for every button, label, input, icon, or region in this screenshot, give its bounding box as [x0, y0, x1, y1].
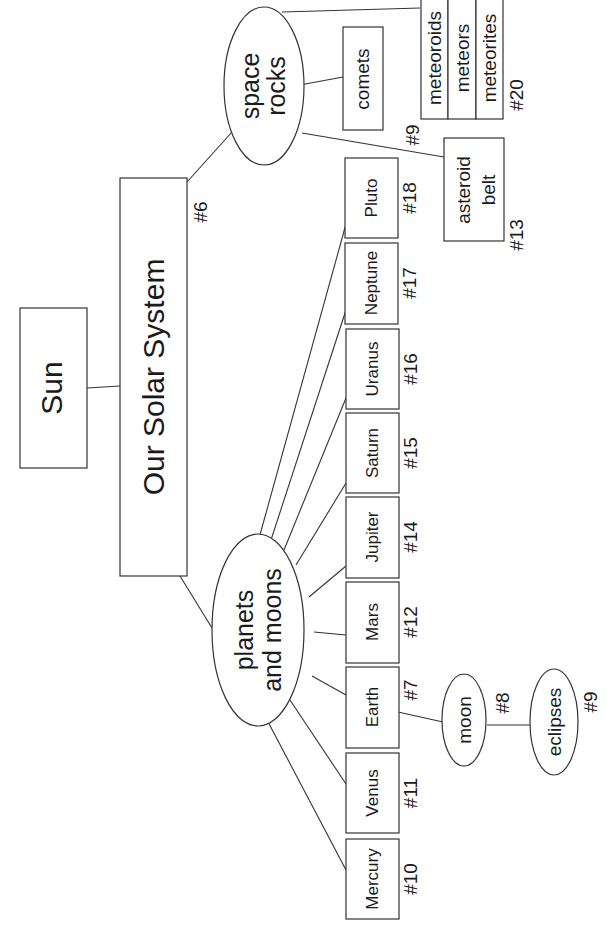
uranus-label: Uranus	[363, 342, 382, 397]
neptune-label: Neptune	[362, 251, 381, 315]
neptune-number: #17	[399, 267, 420, 299]
venus-label: Venus	[363, 769, 382, 816]
earth-number: #7	[400, 679, 421, 700]
node-planets-and-moons: planets and moons	[212, 534, 304, 726]
earth-label: Earth	[363, 687, 382, 728]
planet-pluto: Pluto #18	[345, 158, 420, 238]
concept-map: Sun Our Solar System #6 space rocks plan…	[0, 0, 607, 936]
link-planets-jupiter	[309, 566, 346, 597]
link-planets-mercury	[266, 718, 346, 870]
link-solar-system-space-rocks	[187, 132, 232, 182]
eclipses-label: eclipses	[544, 688, 565, 757]
jupiter-number: #14	[400, 521, 421, 553]
node-eclipses: eclipses #9	[530, 669, 601, 775]
mercury-number: #10	[400, 863, 421, 895]
uranus-number: #16	[400, 353, 421, 385]
pluto-label: Pluto	[362, 179, 381, 218]
planets-label-1: planets	[230, 590, 258, 671]
link-planets-pluto	[258, 224, 346, 542]
link-space-rocks-meteors	[282, 8, 420, 12]
link-solar-system-planets	[180, 576, 212, 628]
link-planets-mars	[314, 632, 346, 635]
pluto-number: #18	[399, 182, 420, 214]
meteoroids-label: meteoroids	[424, 11, 445, 105]
link-planets-saturn	[296, 483, 346, 565]
node-solar-system: Our Solar System #6	[120, 178, 211, 576]
moon-label: moon	[454, 696, 475, 744]
planet-mercury: Mercury #10	[346, 839, 421, 919]
venus-number: #11	[400, 778, 421, 808]
meteorites-label: meteorites	[479, 14, 500, 103]
eclipses-number: #9	[580, 691, 601, 712]
saturn-label: Saturn	[363, 428, 382, 478]
mars-number: #12	[400, 606, 421, 638]
planet-jupiter: Jupiter #14	[346, 497, 421, 578]
link-planets-uranus	[284, 398, 346, 550]
meteor-group-number: #20	[506, 79, 527, 111]
asteroid-belt-label-2: belt	[478, 174, 499, 205]
jupiter-label: Jupiter	[363, 511, 382, 562]
sun-label: Sun	[35, 361, 68, 414]
node-space-rocks: space rocks	[224, 7, 304, 165]
asteroid-belt-label-1: asteroid	[453, 156, 474, 224]
solar-system-number: #6	[190, 201, 211, 222]
node-comets: comets	[343, 27, 383, 130]
mercury-label: Mercury	[363, 848, 382, 910]
saturn-number: #15	[400, 437, 421, 469]
mars-label: Mars	[363, 603, 382, 641]
space-rocks-label-1: space	[236, 53, 264, 120]
planet-neptune: Neptune #17	[345, 243, 420, 324]
space-rocks-number: #9	[402, 124, 423, 145]
link-planets-venus	[290, 700, 346, 784]
solar-system-label: Our Solar System	[137, 259, 170, 496]
moon-number: #8	[492, 692, 513, 713]
link-sun-solar-system	[87, 386, 120, 388]
asteroid-belt-number: #13	[506, 219, 527, 251]
meteors-label: meteors	[452, 24, 473, 93]
planet-mars: Mars #12	[346, 582, 421, 663]
node-asteroid-belt: asteroid belt #13	[444, 138, 527, 251]
planets-label-2: and moons	[258, 568, 286, 692]
planet-uranus: Uranus #16	[346, 329, 421, 409]
link-earth-moon	[398, 712, 443, 722]
link-planets-earth	[312, 676, 346, 695]
planet-earth: Earth #7	[346, 667, 421, 748]
node-moon: moon #8	[442, 674, 513, 766]
planet-venus: Venus #11	[346, 753, 421, 833]
space-rocks-label-2: rocks	[262, 56, 290, 116]
node-sun: Sun	[20, 308, 87, 468]
planet-saturn: Saturn #15	[346, 413, 421, 493]
comets-label: comets	[352, 48, 373, 109]
node-meteor-group: meteoroids meteors meteorites #20	[421, 0, 527, 119]
link-space-rocks-comets	[300, 77, 343, 85]
